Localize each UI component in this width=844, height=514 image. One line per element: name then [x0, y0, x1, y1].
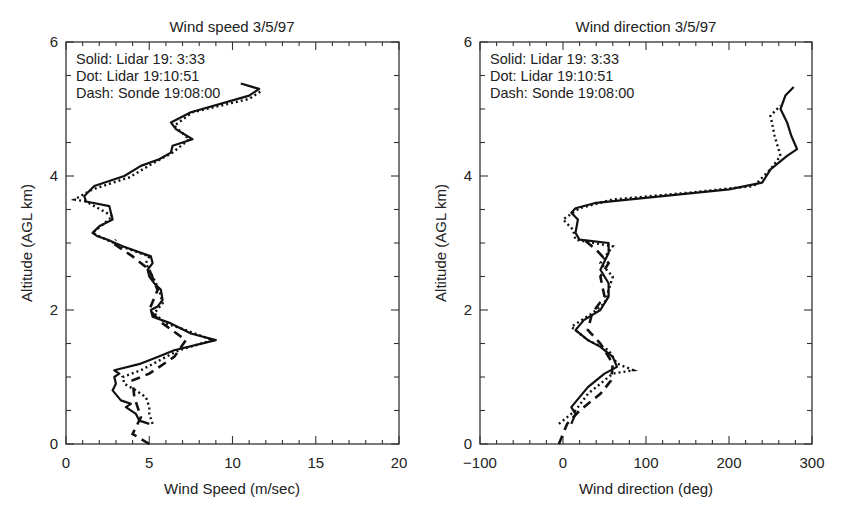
- series-line-solid: [571, 87, 797, 424]
- legend-dash: Dash: Sonde 19:08:00: [490, 85, 634, 101]
- plot-frame: [480, 42, 812, 444]
- y-tick-labels: 0246: [50, 33, 58, 452]
- legend-solid: Solid: Lidar 19: 3:33: [490, 51, 619, 67]
- x-tick-label: 5: [145, 454, 153, 471]
- x-axis-label: Wind Speed (m/sec): [164, 480, 300, 497]
- y-tick-label: 6: [50, 33, 58, 50]
- x-tick-label: 15: [307, 454, 324, 471]
- series-line-dotted: [74, 90, 262, 424]
- y-tick-label: 4: [50, 167, 58, 184]
- legend-dot: Dot: Lidar 19:10:51: [76, 68, 199, 84]
- x-tick-label: 0: [559, 454, 567, 471]
- wind-speed-plot: Wind speed 3/5/97 05101520 0246 Wind Spe…: [18, 18, 407, 497]
- y-tick-label: 0: [464, 435, 472, 452]
- series-line-dashed: [559, 240, 613, 444]
- y-tick-labels: 0246: [464, 33, 472, 452]
- x-tick-label: 10: [224, 454, 241, 471]
- data-lines: [74, 84, 262, 445]
- y-tick-label: 2: [50, 301, 58, 318]
- plot-title: Wind direction 3/5/97: [576, 18, 717, 35]
- x-tick-label: −100: [463, 454, 497, 471]
- x-tick-label: 300: [799, 454, 824, 471]
- data-lines: [559, 87, 797, 444]
- x-tick-label: 20: [391, 454, 408, 471]
- y-tick-label: 0: [50, 435, 58, 452]
- x-tick-labels: 05101520: [62, 454, 408, 471]
- x-tick-label: 200: [716, 454, 741, 471]
- legend-solid: Solid: Lidar 19: 3:33: [76, 51, 205, 67]
- y-tick-label: 6: [464, 33, 472, 50]
- x-tick-label: 0: [62, 454, 70, 471]
- y-axis-label: Altitude (AGL km): [18, 184, 35, 302]
- series-line-dotted: [559, 106, 781, 424]
- y-tick-label: 4: [464, 167, 472, 184]
- wind-direction-plot: Wind direction 3/5/97 −1000100200300 024…: [432, 18, 825, 497]
- y-tick-label: 2: [464, 301, 472, 318]
- x-axis-label: Wind direction (deg): [579, 480, 713, 497]
- series-line-solid: [84, 84, 259, 424]
- x-tick-labels: −1000100200300: [463, 454, 824, 471]
- x-tick-label: 100: [633, 454, 658, 471]
- axis-ticks: [480, 42, 812, 444]
- y-axis-label: Altitude (AGL km): [432, 184, 449, 302]
- legend-dash: Dash: Sonde 19:08:00: [76, 85, 220, 101]
- plot-title: Wind speed 3/5/97: [169, 18, 294, 35]
- figure: Wind speed 3/5/97 05101520 0246 Wind Spe…: [0, 0, 844, 514]
- legend-dot: Dot: Lidar 19:10:51: [490, 68, 613, 84]
